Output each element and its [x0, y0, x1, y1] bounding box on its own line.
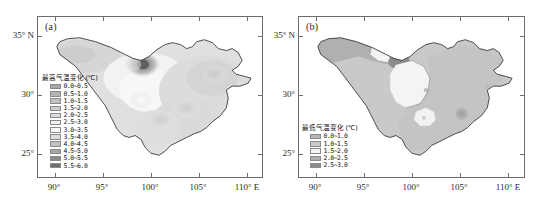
- legend-a-swatch-10: [50, 156, 61, 161]
- tick-y-right-b-2: [520, 154, 524, 155]
- legend-b: 最低气温变化 (℃) 0.0~1.0 1.0~1.5 1.5~2.0 2.0~2…: [302, 125, 358, 169]
- plot-frame-b: (b): [298, 16, 525, 178]
- tick-x-b-2: [412, 173, 413, 177]
- xtick-label-b-1: 95°: [357, 182, 370, 192]
- figure-root: (a): [0, 0, 545, 211]
- ytick-label-a-1: 30°: [0, 89, 34, 99]
- legend-a-label-5: 2.5~3.0: [64, 119, 88, 125]
- legend-a-swatch-6: [50, 127, 61, 132]
- legend-a-label-11: 5.5~6.0: [64, 163, 88, 169]
- legend-a-swatch-11: [50, 163, 61, 168]
- ytick-label-a-2: 25°: [0, 148, 34, 158]
- tick-x-a-0: [55, 173, 56, 177]
- legend-a: 最高气温变化 (℃) 0.0~0.5 0.5~1.0 1.0~1.5 1.5~2…: [42, 75, 98, 169]
- legend-a-label-0: 0.0~0.5: [64, 83, 88, 89]
- tick-x-a-4: [247, 173, 248, 177]
- xtick-label-a-4: 110° E: [235, 182, 260, 192]
- tick-x-top-b-4: [508, 17, 509, 21]
- ytick-label-b-2: 25°: [260, 148, 295, 158]
- xtick-label-b-3: 105°: [450, 182, 467, 192]
- tick-y-b-0: [299, 36, 303, 37]
- tick-x-top-a-4: [247, 17, 248, 21]
- legend-a-swatch-7: [50, 134, 61, 139]
- tick-x-a-3: [199, 173, 200, 177]
- ytick-label-b-1: 30°: [260, 89, 295, 99]
- xtick-label-a-1: 95°: [96, 182, 109, 192]
- legend-a-swatch-5: [50, 120, 61, 125]
- legend-b-swatch-2: [310, 148, 321, 153]
- panel-label-a: (a): [45, 21, 57, 32]
- legend-b-label-4: 2.5~3.0: [324, 162, 348, 168]
- tick-x-top-b-1: [364, 17, 365, 21]
- panel-b: (b): [272, 0, 545, 211]
- xtick-label-a-2: 100°: [141, 182, 158, 192]
- legend-a-title: 最高气温变化 (℃): [42, 75, 98, 82]
- xtick-label-b-0: 90°: [309, 182, 322, 192]
- ytick-label-b-0: 35° N: [260, 30, 295, 40]
- tick-y-b-1: [299, 95, 303, 96]
- panel-label-b: (b): [306, 21, 318, 32]
- tick-y-right-b-0: [520, 36, 524, 37]
- legend-b-swatch-3: [310, 156, 321, 161]
- plot-frame-a: (a): [37, 16, 263, 178]
- xtick-label-b-4: 110° E: [496, 182, 521, 192]
- tick-x-top-b-2: [412, 17, 413, 21]
- tick-x-a-2: [151, 173, 152, 177]
- xtick-label-a-0: 90°: [48, 182, 61, 192]
- legend-a-swatch-3: [50, 106, 61, 111]
- ytick-label-a-0: 35° N: [0, 30, 34, 40]
- legend-a-row: 5.5~6.0: [50, 162, 98, 169]
- legend-b-swatch-4: [310, 163, 321, 168]
- tick-x-b-1: [364, 173, 365, 177]
- legend-b-swatch-0: [310, 134, 321, 139]
- panel-a: (a): [0, 0, 273, 211]
- tick-x-top-b-3: [460, 17, 461, 21]
- legend-b-swatch-1: [310, 141, 321, 146]
- legend-a-swatch-4: [50, 113, 61, 118]
- legend-a-label-10: 5.0~5.5: [64, 155, 88, 161]
- tick-x-b-3: [460, 173, 461, 177]
- tick-x-a-1: [103, 173, 104, 177]
- legend-a-swatch-1: [50, 91, 61, 96]
- tick-x-b-4: [508, 173, 509, 177]
- tick-y-right-b-1: [520, 95, 524, 96]
- tick-x-b-0: [316, 173, 317, 177]
- legend-b-row: 2.5~3.0: [310, 162, 358, 169]
- tick-y-a-0: [38, 36, 42, 37]
- legend-a-swatch-0: [50, 84, 61, 89]
- legend-b-label-0: 0.0~1.0: [324, 133, 348, 139]
- legend-b-title: 最低气温变化 (℃): [302, 125, 358, 132]
- tick-x-top-a-1: [103, 17, 104, 21]
- legend-a-swatch-8: [50, 141, 61, 146]
- legend-a-swatch-2: [50, 98, 61, 103]
- xtick-label-a-3: 105°: [189, 182, 206, 192]
- xtick-label-b-2: 100°: [402, 182, 419, 192]
- tick-x-top-a-2: [151, 17, 152, 21]
- legend-a-swatch-9: [50, 149, 61, 154]
- tick-x-top-a-3: [199, 17, 200, 21]
